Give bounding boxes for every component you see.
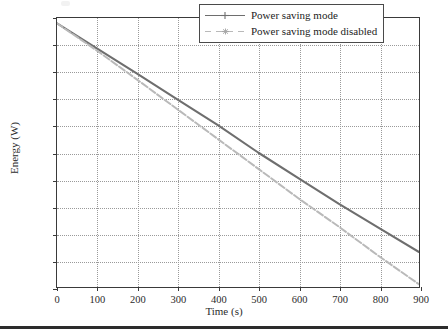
x-tick-mark: [381, 287, 382, 291]
figure-container: 9009109209309409509609709809901000 01002…: [0, 0, 448, 335]
x-tick-label: 300: [158, 295, 198, 306]
x-tick-label: 100: [77, 295, 117, 306]
x-tick-label: 700: [320, 295, 360, 306]
y-tick-mark: [53, 235, 57, 236]
x-axis-title: Time (s): [0, 305, 448, 317]
series-lines: [57, 18, 419, 287]
x-tick-mark: [97, 287, 98, 291]
x-tick-label: 0: [37, 295, 77, 306]
x-tick-mark: [219, 287, 220, 291]
y-tick-mark: [53, 181, 57, 182]
x-tick-mark: [57, 287, 58, 291]
legend-line-sample-solid: [204, 10, 246, 21]
y-tick-mark: [53, 154, 57, 155]
legend-item-power-saving-mode-disabled[interactable]: Power saving mode disabled: [204, 24, 377, 39]
y-axis-title: Energy (W): [8, 88, 20, 208]
x-tick-label: 200: [118, 295, 158, 306]
legend-item-power-saving-mode[interactable]: Power saving mode: [204, 8, 377, 23]
x-tick-mark: [421, 287, 422, 291]
y-tick-mark: [53, 72, 57, 73]
series-line-secondary: [57, 23, 419, 284]
chart-legend[interactable]: Power saving mode Power saving mode disa…: [199, 4, 384, 43]
plot-inner: [57, 18, 419, 287]
legend-line-sample-dashed: [204, 26, 246, 37]
x-tick-label: 800: [361, 295, 401, 306]
y-tick-mark: [53, 262, 57, 263]
x-tick-label: 400: [199, 295, 239, 306]
legend-label-primary: Power saving mode: [251, 10, 338, 21]
plot-area: 9009109209309409509609709809901000 01002…: [56, 17, 420, 288]
y-tick-mark: [53, 208, 57, 209]
x-tick-mark: [259, 287, 260, 291]
y-tick-mark: [53, 18, 57, 19]
x-tick-label: 600: [280, 295, 320, 306]
x-tick-label: 500: [239, 295, 279, 306]
y-tick-mark: [53, 99, 57, 100]
x-tick-mark: [300, 287, 301, 291]
y-tick-mark: [53, 126, 57, 127]
bottom-divider-rule: [0, 326, 448, 329]
x-tick-mark: [340, 287, 341, 291]
x-tick-mark: [178, 287, 179, 291]
top-edge-artifact: [61, 1, 70, 6]
series-line-primary: [57, 23, 419, 252]
legend-label-secondary: Power saving mode disabled: [251, 26, 377, 37]
x-tick-mark: [138, 287, 139, 291]
x-tick-label: 900: [401, 295, 441, 306]
y-tick-mark: [53, 45, 57, 46]
